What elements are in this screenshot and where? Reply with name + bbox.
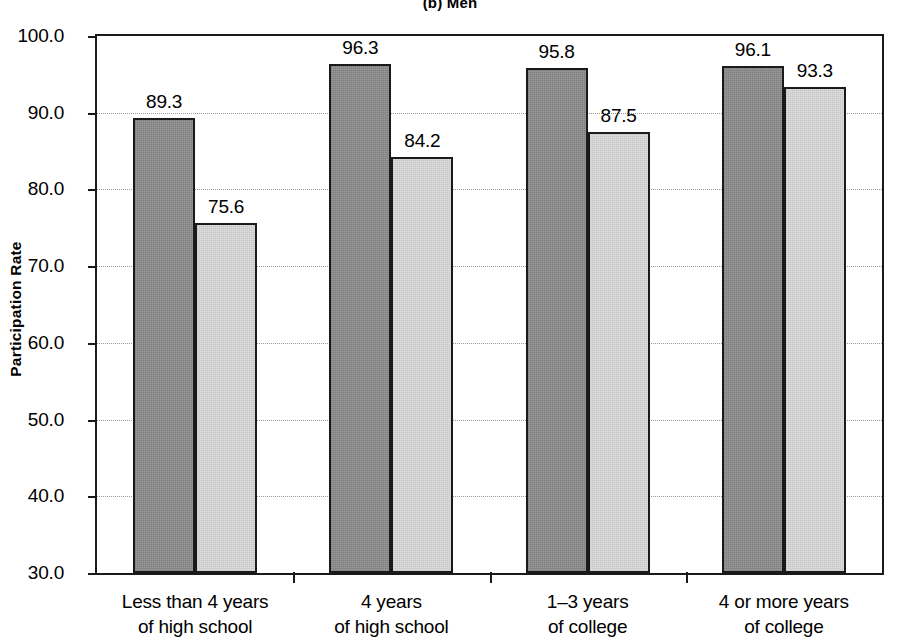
bar-value-label: 96.1 (735, 39, 771, 61)
bar-value-label: 87.5 (601, 105, 637, 127)
y-tick-label: 80.0 (0, 178, 64, 200)
y-tick-mark (88, 36, 97, 38)
y-axis-title: Participation Rate (7, 189, 25, 429)
bar-value-label: 84.2 (404, 130, 440, 152)
bar-value-label: 95.8 (539, 41, 575, 63)
y-tick-label: 30.0 (0, 562, 64, 584)
bar (526, 68, 588, 573)
y-tick-mark (88, 343, 97, 345)
chart-title: (b) Men (0, 0, 900, 11)
bar-value-label: 93.3 (797, 60, 833, 82)
bar (722, 66, 784, 573)
bar (391, 157, 453, 573)
bar (784, 87, 846, 573)
plot-area: 100.090.080.070.060.050.040.030.0 89.375… (95, 34, 884, 575)
y-tick-label: 100.0 (0, 25, 64, 47)
bar (329, 64, 391, 573)
y-tick-label: 50.0 (0, 409, 64, 431)
category-separator-tick (293, 572, 295, 583)
category-separator-tick (686, 572, 688, 583)
y-tick-mark (88, 496, 97, 498)
bar (588, 132, 650, 573)
category-label: 4 or more yearsof college (664, 589, 900, 639)
category-label-line: of college (664, 614, 900, 639)
bar (195, 223, 257, 573)
bar-value-label: 75.6 (208, 196, 244, 218)
chart-container: (b) Men Participation Rate 100.090.080.0… (0, 0, 900, 640)
category-separator-tick (490, 572, 492, 583)
y-tick-label: 40.0 (0, 485, 64, 507)
y-tick-mark (88, 420, 97, 422)
y-tick-mark (88, 573, 97, 575)
bar (133, 118, 195, 573)
y-tick-label: 90.0 (0, 102, 64, 124)
category-label-line: 4 or more years (664, 589, 900, 614)
y-tick-label: 60.0 (0, 332, 64, 354)
y-tick-mark (88, 266, 97, 268)
bar-value-label: 96.3 (342, 37, 378, 59)
y-tick-mark (88, 189, 97, 191)
bar-value-label: 89.3 (146, 91, 182, 113)
y-tick-label: 70.0 (0, 255, 64, 277)
y-tick-mark (88, 113, 97, 115)
